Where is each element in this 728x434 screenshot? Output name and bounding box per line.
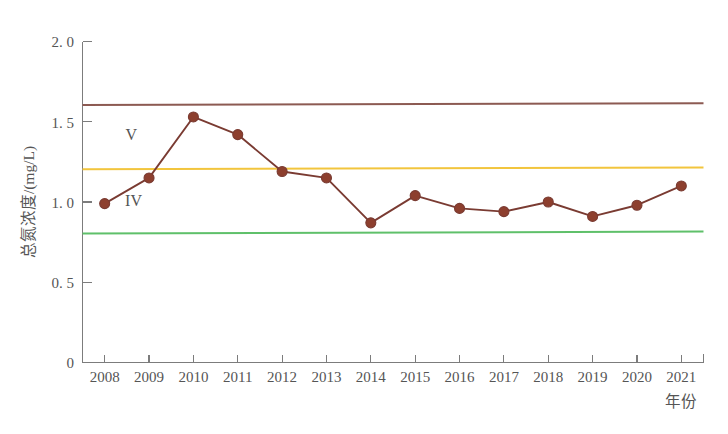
x-axis-tick-labels: 2008200920102011201220132014201520162017… [90, 369, 697, 385]
y-tick-label-1p5: 1. 5 [52, 115, 75, 131]
data-point-2009: 2009: 1.15 [144, 173, 154, 183]
y-tick-label-1: 1. 0 [52, 195, 75, 211]
total-nitrogen-line-chart: 2. 0 1. 5 1. 0 0. 5 0 总氮浓度/(mg/L) 200820… [0, 0, 728, 434]
x-tick-label-2012: 2012 [267, 369, 297, 385]
y-axis-ticks [83, 42, 92, 363]
data-point-2020: 2020: 0.98 [632, 200, 642, 210]
data-point-2013: 2013: 1.15 [321, 173, 331, 183]
data-point-2014: 2014: 0.87 [366, 218, 376, 228]
x-tick-label-2016: 2016 [445, 369, 476, 385]
data-point-2012: 2012: 1.19 [277, 167, 287, 177]
x-tick-label-2008: 2008 [90, 369, 120, 385]
chart-figure: 2. 0 1. 5 1. 0 0. 5 0 总氮浓度/(mg/L) 200820… [0, 0, 728, 434]
x-tick-label-2013: 2013 [311, 369, 341, 385]
reference-line-class-iv-lower [83, 232, 704, 234]
y-tick-label-0: 0 [67, 355, 75, 371]
y-axis-title: 总氮浓度/(mg/L) [20, 146, 38, 258]
x-tick-label-2020: 2020 [622, 369, 652, 385]
data-point-2019: 2019: 0.91 [588, 211, 598, 221]
x-tick-label-2019: 2019 [578, 369, 608, 385]
reference-line-class-v-upper [83, 103, 704, 105]
data-point-2016: 2016: 0.96 [455, 203, 465, 213]
y-axis-tick-labels: 2. 0 1. 5 1. 0 0. 5 0 [52, 34, 75, 371]
x-tick-label-2017: 2017 [489, 369, 520, 385]
x-axis-title: 年份 [665, 393, 697, 410]
x-tick-label-2018: 2018 [533, 369, 563, 385]
water-quality-grade-annotations: VIV [125, 126, 142, 209]
grade-label-v: V [126, 126, 138, 143]
series-line-total-nitrogen [105, 117, 682, 223]
data-point-2011: 2011: 1.42 [233, 130, 243, 140]
series-markers-total-nitrogen: 2008: 0.992009: 1.152010: 1.532011: 1.42… [100, 112, 687, 228]
reference-line-class-v-lower [83, 167, 704, 169]
data-point-2017: 2017: 0.94 [499, 207, 509, 217]
data-point-2021: 2021: 1.1 [676, 181, 686, 191]
x-tick-label-2021: 2021 [666, 369, 696, 385]
data-point-2010: 2010: 1.53 [188, 112, 198, 122]
grade-label-iv: IV [125, 192, 142, 209]
x-tick-label-2015: 2015 [400, 369, 430, 385]
plot-axes [83, 42, 704, 363]
data-point-2018: 2018: 1 [543, 197, 553, 207]
y-tick-label-0p5: 0. 5 [52, 275, 75, 291]
x-tick-label-2009: 2009 [134, 369, 164, 385]
y-tick-label-2: 2. 0 [52, 34, 75, 50]
x-tick-label-2014: 2014 [356, 369, 387, 385]
reference-lines [83, 103, 704, 233]
data-point-2015: 2015: 1.04 [410, 191, 420, 201]
data-point-2008: 2008: 0.99 [100, 199, 110, 209]
x-tick-label-2010: 2010 [178, 369, 208, 385]
x-axis-ticks [105, 355, 682, 363]
x-tick-label-2011: 2011 [223, 369, 252, 385]
